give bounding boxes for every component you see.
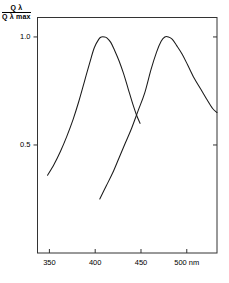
curve-curve-1 xyxy=(48,37,141,175)
x-tick-label: 400 xyxy=(75,258,115,267)
x-tick-label: 350 xyxy=(29,258,69,267)
chart-figure: Q λ Q λ max 350400450500 nm0.51.0 xyxy=(0,0,229,283)
y-tick-label: 1.0 xyxy=(0,32,31,41)
axes-frame xyxy=(38,18,218,254)
x-tick-label: 450 xyxy=(121,258,161,267)
y-tick-label: 0.5 xyxy=(0,140,31,149)
x-tick-label: 500 nm xyxy=(167,258,207,267)
plot-svg xyxy=(0,0,229,283)
data-curves xyxy=(48,37,217,199)
plot-border xyxy=(38,18,218,254)
curve-curve-2 xyxy=(100,37,217,199)
